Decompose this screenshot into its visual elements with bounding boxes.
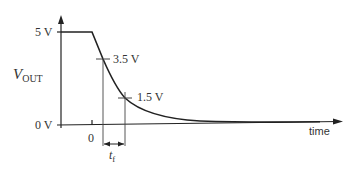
vout-waveform: [61, 32, 320, 122]
y-axis-arrow-icon: [58, 15, 64, 24]
waveform-plot: 5 V 0 V VOUT 3.5 V 1.5 V 0 time tf: [0, 0, 352, 170]
x-axis-arrow-icon: [333, 119, 343, 125]
x-axis-label: time: [309, 125, 330, 137]
y-axis-label: VOUT: [13, 66, 43, 84]
fall-time-label: tf: [109, 148, 115, 164]
x-tick-label-zero: 0: [88, 131, 94, 145]
marker-label-3v5: 3.5 V: [113, 52, 140, 66]
tick-label-0v: 0 V: [35, 118, 53, 132]
fall-time-diagram: 5 V 0 V VOUT 3.5 V 1.5 V 0 time tf: [0, 0, 352, 170]
tf-arrow-left-icon: [104, 142, 110, 147]
tick-label-5v: 5 V: [35, 25, 53, 39]
marker-label-1v5: 1.5 V: [137, 90, 164, 104]
tf-arrow-right-icon: [118, 142, 124, 147]
